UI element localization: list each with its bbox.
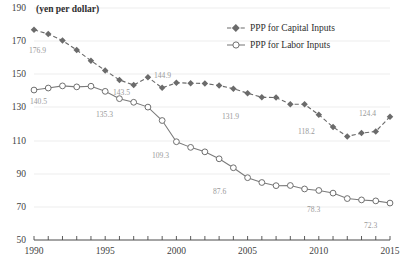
- data-point-label: 124.4: [359, 109, 376, 118]
- data-point-marker: [74, 84, 80, 90]
- data-point-marker: [116, 77, 123, 84]
- series-line: [34, 30, 390, 137]
- x-tick-2010: 2010: [309, 246, 328, 256]
- data-point-label: 135.3: [96, 110, 113, 119]
- data-point-marker: [188, 144, 194, 150]
- unit-label: (yen per dollar): [36, 4, 99, 15]
- data-point-marker: [216, 82, 223, 89]
- data-point-label: 140.5: [30, 97, 47, 106]
- legend-label-capital: PPP for Capital Inputs: [250, 23, 335, 33]
- series-layer: [31, 26, 394, 205]
- data-point-marker: [60, 83, 66, 89]
- chart-container: (yen per dollar) 190 170 150 130 110 90 …: [0, 0, 403, 272]
- x-axis-tick-labels: 199019952000200520102015: [25, 246, 400, 256]
- x-axis-tickmarks: [34, 236, 390, 240]
- data-point-label: 143.5: [113, 88, 130, 97]
- x-tick-1995: 1995: [96, 246, 115, 256]
- data-point-marker: [130, 82, 137, 89]
- gridlines: [34, 8, 390, 207]
- data-point-marker: [387, 200, 393, 206]
- legend-marker-capital: [232, 24, 240, 32]
- series-line: [34, 86, 390, 203]
- data-point-label: 144.9: [154, 71, 171, 80]
- data-point-marker: [358, 130, 365, 137]
- data-point-marker: [287, 101, 294, 108]
- data-point-label: 176.9: [29, 46, 46, 55]
- data-point-marker: [131, 99, 137, 105]
- data-point-marker: [230, 85, 237, 92]
- y-tick-110: 110: [12, 136, 26, 146]
- series-labor: [31, 83, 393, 206]
- data-point-marker: [244, 90, 251, 97]
- data-point-marker: [259, 94, 266, 101]
- data-point-marker: [102, 88, 108, 94]
- y-tick-150: 150: [12, 69, 27, 79]
- x-tick-2000: 2000: [167, 246, 186, 256]
- y-tick-190: 190: [12, 3, 27, 13]
- x-tick-2015: 2015: [381, 246, 400, 256]
- data-point-marker: [344, 133, 351, 140]
- y-tick-90: 90: [17, 169, 27, 179]
- data-point-marker: [245, 175, 251, 181]
- data-point-marker: [330, 190, 336, 196]
- data-point-marker: [31, 26, 38, 33]
- data-point-label: 87.6: [213, 187, 226, 196]
- data-point-marker: [202, 80, 209, 87]
- y-tick-70: 70: [17, 202, 27, 212]
- x-tick-2005: 2005: [238, 246, 257, 256]
- data-point-marker: [287, 183, 293, 189]
- data-point-marker: [373, 198, 379, 204]
- data-point-marker: [316, 188, 322, 194]
- legend-label-labor: PPP for Labor Inputs: [250, 40, 330, 50]
- data-point-label: 109.3: [152, 151, 169, 160]
- data-point-marker: [174, 139, 180, 145]
- data-point-marker: [45, 85, 51, 91]
- data-point-label: 131.9: [222, 112, 239, 121]
- y-tick-130: 130: [12, 102, 27, 112]
- data-point-label: 72.3: [364, 221, 377, 230]
- data-point-label: 78.3: [307, 205, 320, 214]
- data-point-marker: [45, 31, 52, 38]
- data-point-marker: [344, 196, 350, 202]
- y-axis-tick-labels: 190 170 150 130 110 90 70 50: [12, 3, 27, 245]
- data-point-marker: [273, 183, 279, 189]
- series-capital: [31, 26, 394, 139]
- y-tick-50: 50: [17, 235, 27, 245]
- data-point-marker: [273, 94, 280, 101]
- chart-legend: PPP for Capital Inputs PPP for Labor Inp…: [227, 23, 335, 50]
- data-point-marker: [202, 149, 208, 155]
- line-chart: (yen per dollar) 190 170 150 130 110 90 …: [0, 0, 403, 272]
- data-point-marker: [145, 74, 152, 81]
- data-point-marker: [102, 67, 109, 74]
- y-tick-170: 170: [12, 36, 27, 46]
- x-tick-1990: 1990: [25, 246, 44, 256]
- data-point-marker: [145, 104, 151, 110]
- data-point-marker: [302, 186, 308, 192]
- data-point-marker: [230, 165, 236, 171]
- data-point-marker: [173, 79, 180, 86]
- data-point-marker: [259, 180, 265, 186]
- data-point-marker: [216, 156, 222, 162]
- data-point-label: 118.2: [298, 127, 315, 136]
- data-point-marker: [301, 101, 308, 108]
- data-point-marker: [88, 83, 94, 89]
- data-point-marker: [31, 87, 37, 93]
- legend-marker-labor: [233, 42, 239, 48]
- data-point-marker: [59, 37, 66, 44]
- data-point-marker: [187, 80, 194, 87]
- data-point-marker: [359, 197, 365, 203]
- data-point-marker: [159, 118, 165, 124]
